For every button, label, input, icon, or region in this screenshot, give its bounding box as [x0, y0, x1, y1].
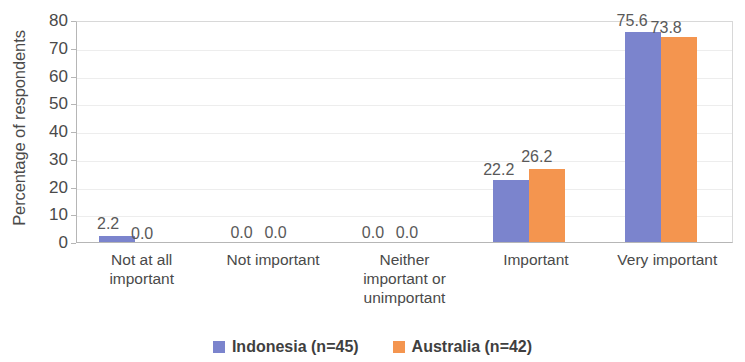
bar-chart: Percentage of respondents 80706050403020… — [0, 0, 745, 362]
x-axis-category-labels: Not at allimportantNot importantNeitheri… — [76, 250, 733, 320]
bar-group: 22.226.2 — [471, 20, 602, 242]
bar-australia[interactable] — [529, 169, 565, 242]
x-axis-label-line: Neither — [339, 250, 470, 269]
x-axis-label-1: Not important — [207, 250, 338, 269]
bar-data-label: 0.0 — [131, 226, 153, 242]
y-axis-tickmark — [71, 160, 76, 161]
y-axis-tickmark — [71, 77, 76, 78]
y-axis-tick-70: 70 — [28, 40, 68, 57]
y-axis-tickmark — [71, 104, 76, 105]
x-axis-label-0: Not at allimportant — [76, 250, 207, 288]
y-axis-tick-50: 50 — [28, 95, 68, 112]
bar-data-label: 0.0 — [230, 225, 252, 241]
x-axis-label-2: Neitherimportant orunimportant — [339, 250, 470, 307]
bar-data-label: 2.2 — [97, 216, 119, 232]
y-axis-tickmark — [71, 21, 76, 22]
legend-item-indonesia[interactable]: Indonesia (n=45) — [213, 338, 359, 356]
bar-indonesia[interactable] — [99, 236, 135, 242]
chart-legend: Indonesia (n=45)Australia (n=42) — [0, 338, 745, 356]
y-axis-tick-40: 40 — [28, 123, 68, 140]
x-axis-label-3: Important — [470, 250, 601, 269]
y-axis-tick-labels: 80706050403020100 — [28, 0, 68, 362]
x-axis-label-line: important or — [339, 269, 470, 288]
y-axis-tickmark — [71, 243, 76, 244]
bar-indonesia[interactable] — [493, 180, 529, 242]
bar-group: 75.673.8 — [603, 20, 734, 242]
x-axis-label-line: unimportant — [339, 288, 470, 307]
legend-item-australia[interactable]: Australia (n=42) — [393, 338, 532, 356]
y-axis-tickmark — [71, 215, 76, 216]
bar-australia[interactable] — [661, 37, 697, 242]
x-axis-label-line: Not important — [207, 250, 338, 269]
legend-label: Indonesia (n=45) — [232, 338, 359, 356]
bar-data-label: 26.2 — [521, 149, 552, 165]
bar-data-label: 75.6 — [617, 13, 648, 29]
y-axis-tick-60: 60 — [28, 68, 68, 85]
legend-label: Australia (n=42) — [412, 338, 532, 356]
bar-group: 2.20.0 — [77, 20, 208, 242]
x-axis-label-line: important — [76, 269, 207, 288]
bar-group: 0.00.0 — [340, 20, 471, 242]
bar-data-label: 73.8 — [651, 20, 682, 36]
y-axis-tickmark — [71, 49, 76, 50]
x-axis-label-4: Very important — [602, 250, 733, 269]
bar-data-label: 0.0 — [264, 225, 286, 241]
y-axis-tick-80: 80 — [28, 12, 68, 29]
legend-swatch-icon — [393, 341, 405, 353]
bar-data-label: 22.2 — [483, 162, 514, 178]
bar-group: 0.00.0 — [208, 20, 339, 242]
legend-swatch-icon — [213, 341, 225, 353]
x-axis-label-line: Not at all — [76, 250, 207, 269]
y-axis-tickmark — [71, 132, 76, 133]
y-axis-tick-0: 0 — [28, 234, 68, 251]
bar-data-label: 0.0 — [362, 225, 384, 241]
x-axis-label-line: Very important — [602, 250, 733, 269]
bar-data-label: 0.0 — [396, 225, 418, 241]
bar-indonesia[interactable] — [625, 32, 661, 242]
y-axis-tick-30: 30 — [28, 151, 68, 168]
y-axis-tick-20: 20 — [28, 179, 68, 196]
y-axis-tickmark — [71, 188, 76, 189]
x-axis-label-line: Important — [470, 250, 601, 269]
y-axis-tick-10: 10 — [28, 206, 68, 223]
plot-area: 2.20.00.00.00.00.022.226.275.673.8 — [76, 21, 733, 243]
